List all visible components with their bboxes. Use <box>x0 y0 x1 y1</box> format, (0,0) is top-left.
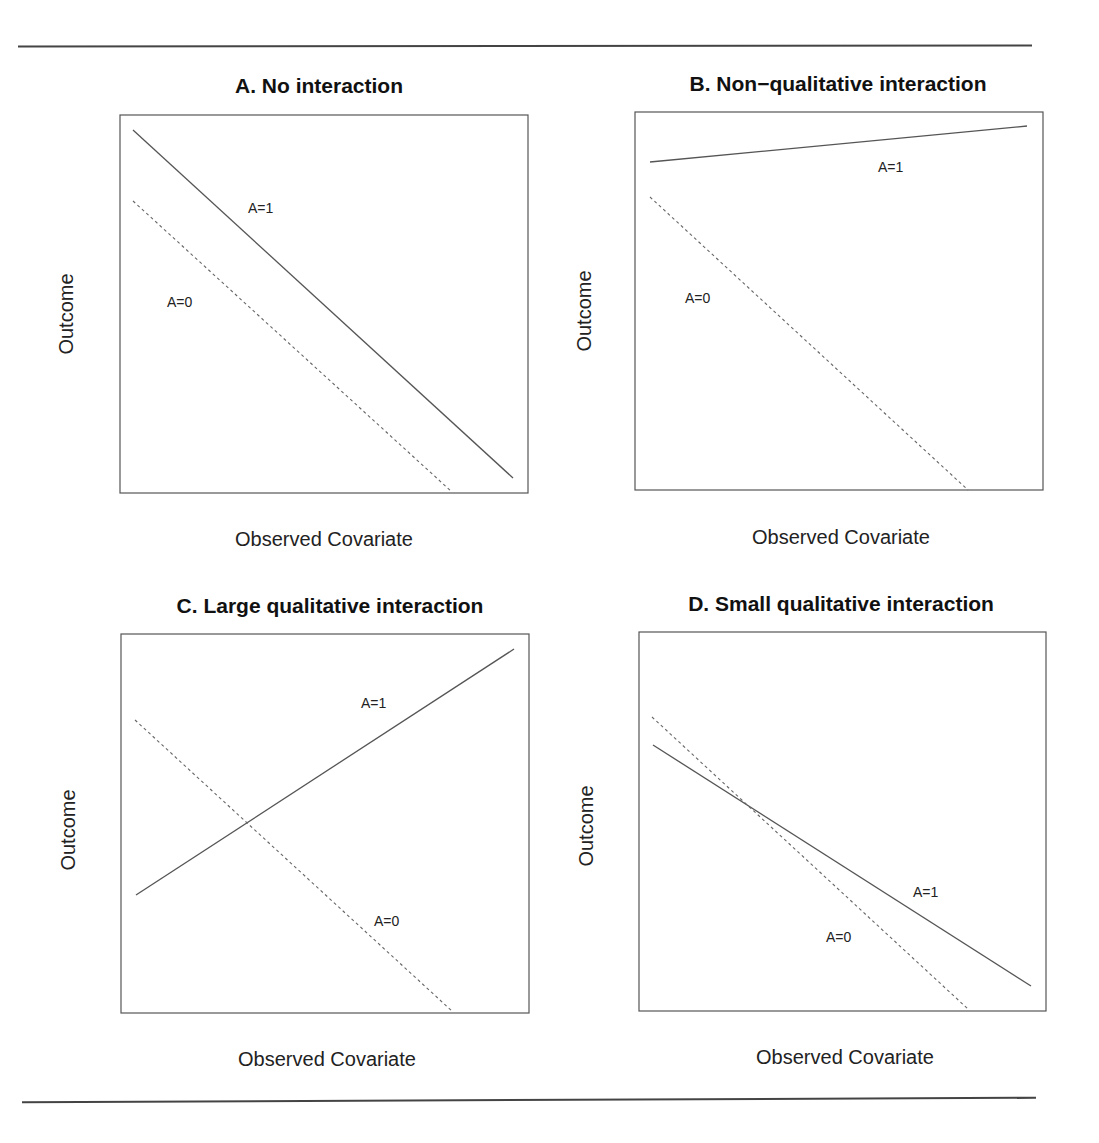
panel-c-label-a1: A=1 <box>361 695 387 711</box>
panel-c-label-a0: A=0 <box>374 913 400 929</box>
panel-c-line-a1 <box>136 649 514 895</box>
panel-c-line-a0 <box>135 720 453 1012</box>
panel-b-label-a0: A=0 <box>685 290 711 306</box>
panel-b: A=1 A=0 <box>635 112 1043 490</box>
panel-d-label-a1: A=1 <box>913 884 939 900</box>
panel-c-frame <box>121 634 529 1013</box>
panel-b-line-a1 <box>650 126 1027 162</box>
panel-a-label-a1: A=1 <box>248 200 274 216</box>
panel-d-line-a0 <box>652 717 968 1009</box>
panel-b-label-a1: A=1 <box>878 159 904 175</box>
panel-d: A=1 A=0 <box>639 632 1046 1011</box>
panel-a-label-a0: A=0 <box>167 294 193 310</box>
panel-d-line-a1 <box>653 745 1031 986</box>
panel-c: A=1 A=0 <box>121 634 529 1013</box>
panel-a: A=1 A=0 <box>120 115 528 493</box>
panel-b-line-a0 <box>650 197 968 490</box>
panel-a-line-a0 <box>133 201 452 492</box>
panel-d-frame <box>639 632 1046 1011</box>
figure-plots: A=1 A=0 A=1 A=0 A=1 A=0 A=1 A=0 <box>0 0 1099 1143</box>
panel-d-label-a0: A=0 <box>826 929 852 945</box>
